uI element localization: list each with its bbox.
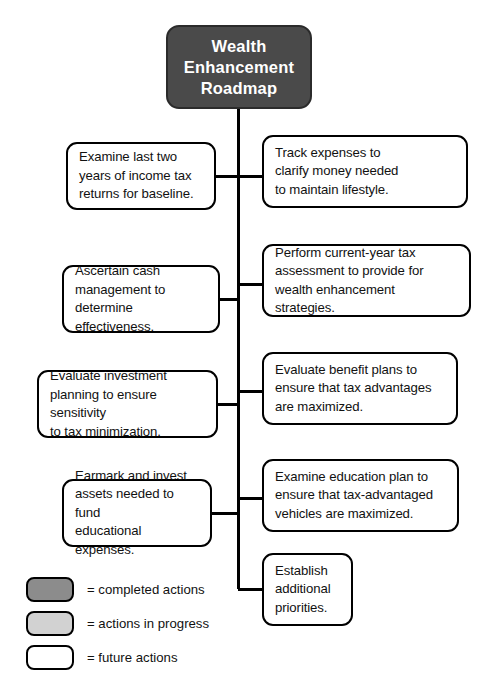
roadmap-diagram: Wealth Enhancement Roadmap Examine last … xyxy=(0,0,494,690)
root-node-label: Wealth Enhancement Roadmap xyxy=(168,36,310,99)
left-node-4[interactable]: Earmark and invest assets needed to fund… xyxy=(62,479,212,547)
legend-swatch-completed-icon xyxy=(26,577,74,602)
right-node-2[interactable]: Perform current-year tax assessment to p… xyxy=(262,244,471,317)
legend-item-in-progress: = actions in progress xyxy=(26,606,256,640)
legend-item-future: = future actions xyxy=(26,640,256,674)
legend-label-completed: = completed actions xyxy=(87,581,205,598)
legend-swatch-in-progress-icon xyxy=(26,611,74,636)
legend-item-completed: = completed actions xyxy=(26,572,256,606)
left-node-1[interactable]: Examine last two years of income tax ret… xyxy=(66,142,216,210)
left-node-2-label: Ascertain cash management to determine e… xyxy=(64,262,218,336)
right-node-1[interactable]: Track expenses to clarify money needed t… xyxy=(262,135,468,208)
left-node-2[interactable]: Ascertain cash management to determine e… xyxy=(62,265,220,333)
right-node-3[interactable]: Evaluate benefit plans to ensure that ta… xyxy=(262,352,458,425)
right-node-2-label: Perform current-year tax assessment to p… xyxy=(264,244,469,318)
left-node-1-label: Examine last two years of income tax ret… xyxy=(68,148,214,204)
legend-label-in-progress: = actions in progress xyxy=(87,615,209,632)
right-node-4-label: Examine education plan to ensure that ta… xyxy=(264,468,457,524)
legend: = completed actions = actions in progres… xyxy=(26,572,256,674)
root-node-wealth-enhancement-roadmap[interactable]: Wealth Enhancement Roadmap xyxy=(166,25,312,109)
left-node-3-label: Evaluate investment planning to ensure s… xyxy=(39,367,216,441)
legend-swatch-future-icon xyxy=(26,645,74,670)
right-node-4[interactable]: Examine education plan to ensure that ta… xyxy=(262,459,459,532)
right-node-5-label: Establish additional priorities. xyxy=(264,562,351,618)
legend-label-future: = future actions xyxy=(87,649,178,666)
right-node-5[interactable]: Establish additional priorities. xyxy=(262,553,353,626)
right-node-3-label: Evaluate benefit plans to ensure that ta… xyxy=(264,361,456,417)
left-node-3[interactable]: Evaluate investment planning to ensure s… xyxy=(37,370,218,438)
left-node-4-label: Earmark and invest assets needed to fund… xyxy=(64,467,210,560)
right-node-1-label: Track expenses to clarify money needed t… xyxy=(264,144,466,200)
